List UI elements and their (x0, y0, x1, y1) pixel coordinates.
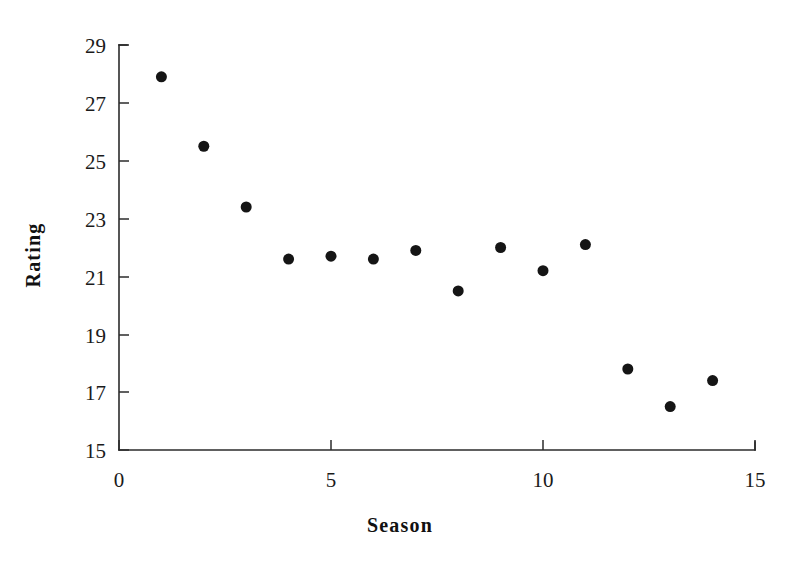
data-point (326, 251, 337, 262)
data-point (538, 265, 549, 276)
x-tick-label-10: 10 (533, 468, 554, 492)
data-point (495, 242, 506, 253)
scatter-plot: 29 27 25 23 21 19 17 15 0 5 10 15 Season… (0, 0, 786, 571)
y-axis-title: Rating (22, 223, 45, 288)
data-point (665, 401, 676, 412)
y-tick-label-23: 23 (85, 208, 106, 232)
y-tick-label-27: 27 (85, 92, 106, 116)
data-point (241, 202, 252, 213)
x-tick-label-15: 15 (745, 468, 766, 492)
data-point (580, 239, 591, 250)
y-tick-label-29: 29 (85, 34, 106, 58)
y-tick-label-21: 21 (85, 266, 106, 290)
data-point (283, 254, 294, 265)
x-tick-label-0: 0 (114, 468, 125, 492)
y-tick-label-25: 25 (85, 150, 106, 174)
data-point (707, 375, 718, 386)
y-tick-label-17: 17 (85, 381, 106, 405)
x-tick-label-5: 5 (326, 468, 337, 492)
chart-figure: 29 27 25 23 21 19 17 15 0 5 10 15 Season… (0, 0, 786, 571)
data-point (156, 71, 167, 82)
data-point (368, 254, 379, 265)
data-point (410, 245, 421, 256)
data-point (622, 364, 633, 375)
data-point (453, 285, 464, 296)
y-tick-label-15: 15 (85, 439, 106, 463)
y-tick-label-19: 19 (85, 324, 106, 348)
data-point (198, 141, 209, 152)
x-axis-title: Season (367, 514, 433, 536)
